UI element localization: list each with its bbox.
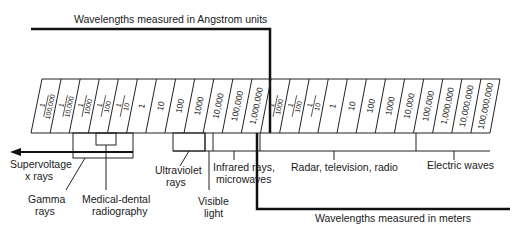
- title-meters: Wavelengths measured in meters: [315, 212, 471, 224]
- label-medical: Medical-dental: [82, 193, 150, 205]
- fraction-numerator: 1: [96, 102, 104, 107]
- scale-cell: 100,000: [229, 90, 245, 122]
- scale-value: 10,000: [401, 92, 416, 120]
- label-electric: Electric waves: [427, 159, 494, 171]
- fraction-numerator: 1: [287, 102, 295, 107]
- scale-cell: 1000: [192, 95, 206, 116]
- medical-bracket: [96, 133, 116, 145]
- scale-cell: 110,000: [56, 94, 75, 119]
- fraction-numerator: 1: [38, 102, 46, 107]
- fraction-denominator: 10: [313, 102, 321, 111]
- fraction-numerator: 1: [115, 102, 123, 107]
- ultraviolet-bracket: [173, 133, 205, 151]
- fraction-denominator: 100: [103, 100, 112, 113]
- scale-value: 10: [155, 100, 167, 112]
- scale-cell: 11000: [266, 94, 285, 119]
- scale-cell: 1000: [383, 95, 397, 116]
- scale-cell: 10,000: [401, 92, 416, 120]
- scale-value: 100,000: [420, 90, 436, 122]
- label-visible-2: light: [204, 207, 223, 219]
- fraction-numerator: 1: [268, 102, 276, 107]
- scale-cell: 10: [155, 100, 167, 112]
- fraction-denominator: 100: [294, 100, 303, 113]
- label-radar: Radar, television, radio: [291, 161, 398, 173]
- fraction-denominator: 100,000: [44, 94, 56, 120]
- fraction-denominator: 1000: [274, 98, 284, 115]
- scale-cell: 1: [327, 102, 338, 109]
- electromagnetic-spectrum-diagram: Wavelengths measured in Angstrom units W…: [0, 0, 513, 229]
- fraction-numerator: 1: [77, 102, 85, 107]
- scale-value: 10,000: [210, 92, 225, 120]
- label-infrared-2: microwaves: [216, 173, 271, 185]
- label-ultraviolet-2: rays: [166, 176, 186, 188]
- scale-cell: 110: [304, 94, 323, 119]
- scale-cell: 1: [136, 102, 147, 109]
- scale-cell: 1100: [285, 94, 304, 119]
- fraction-numerator: 1: [306, 102, 314, 107]
- label-supervoltage: Supervoltage: [10, 158, 72, 170]
- label-infrared: Infrared rays,: [213, 161, 275, 173]
- scale-value: 1,000,000: [247, 86, 265, 125]
- fraction-numerator: 1: [57, 102, 65, 107]
- scale-value: 1000: [383, 95, 397, 116]
- scale-cell: 110: [113, 94, 132, 119]
- label-medical-2: radiography: [92, 205, 148, 217]
- scale-cell: 100: [364, 98, 377, 114]
- scale-value: 1,000,000: [438, 86, 456, 125]
- scale-value: 100,000: [229, 90, 245, 122]
- scale-cell: 1100,000: [36, 92, 56, 120]
- fraction-denominator: 1000: [83, 98, 93, 115]
- scale-cell: 100,000: [420, 90, 436, 122]
- scale-cell: 1100: [94, 94, 113, 119]
- scale-value: 100: [173, 98, 186, 114]
- scale-cell: 10: [346, 100, 358, 112]
- scale-cell: 100: [173, 98, 186, 114]
- scale-cell: 10,000: [210, 92, 225, 120]
- label-ultraviolet: Ultraviolet: [155, 164, 202, 176]
- arrow-left-icon: [10, 148, 21, 156]
- scale-cell: 1,000,000: [438, 86, 456, 125]
- scale-value: 10: [346, 100, 358, 112]
- label-gamma: Gamma: [28, 193, 66, 205]
- fraction-denominator: 10: [122, 102, 130, 111]
- scale-value: 1000: [192, 95, 206, 116]
- scale-value: 1: [136, 102, 147, 109]
- scale-cell: 1,000,000: [247, 86, 265, 125]
- label-supervoltage-2: x rays: [25, 170, 53, 182]
- scale-value: 1: [327, 102, 338, 109]
- scale-cell: 11000: [75, 94, 94, 119]
- scale-value: 100: [364, 98, 377, 114]
- label-gamma-2: rays: [35, 205, 55, 217]
- title-angstrom: Wavelengths measured in Angstrom units: [74, 13, 267, 25]
- label-visible: Visible: [198, 195, 229, 207]
